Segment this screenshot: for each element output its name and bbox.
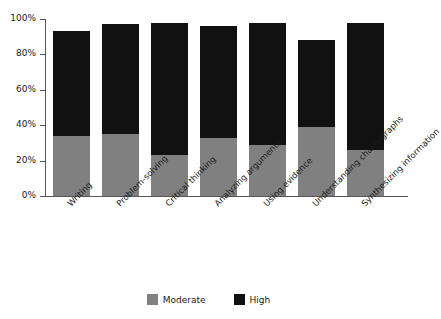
legend-swatch-icon xyxy=(147,294,158,305)
y-axis-tick xyxy=(40,54,45,55)
y-axis-tick-label: 80% xyxy=(0,49,36,58)
bar-group[interactable] xyxy=(53,19,90,196)
y-axis-tick-label: 100% xyxy=(0,14,36,23)
y-axis-spine xyxy=(45,19,46,197)
legend-label: Moderate xyxy=(163,295,206,305)
y-axis-tick xyxy=(40,161,45,162)
legend-item[interactable]: Moderate xyxy=(147,294,206,305)
y-axis-tick-label: 20% xyxy=(0,156,36,165)
bar-segment-high[interactable] xyxy=(200,26,237,138)
bar-segment-high[interactable] xyxy=(347,23,384,150)
y-axis-tick xyxy=(40,90,45,91)
y-axis-tick xyxy=(40,19,45,20)
legend-swatch-icon xyxy=(234,294,245,305)
legend-label: High xyxy=(250,295,271,305)
y-axis-tick xyxy=(40,196,45,197)
bar-segment-high[interactable] xyxy=(249,23,286,145)
y-axis-tick xyxy=(40,125,45,126)
bar-segment-high[interactable] xyxy=(151,23,188,156)
y-axis-tick-label: 0% xyxy=(0,191,36,200)
bar-group[interactable] xyxy=(102,19,139,196)
bar-segment-high[interactable] xyxy=(53,31,90,135)
chart-legend: ModerateHigh xyxy=(0,294,417,305)
legend-item[interactable]: High xyxy=(234,294,271,305)
bar-segment-high[interactable] xyxy=(298,40,335,127)
y-axis-tick-label: 40% xyxy=(0,120,36,129)
y-axis-tick-label: 60% xyxy=(0,85,36,94)
bar-segment-high[interactable] xyxy=(102,24,139,134)
